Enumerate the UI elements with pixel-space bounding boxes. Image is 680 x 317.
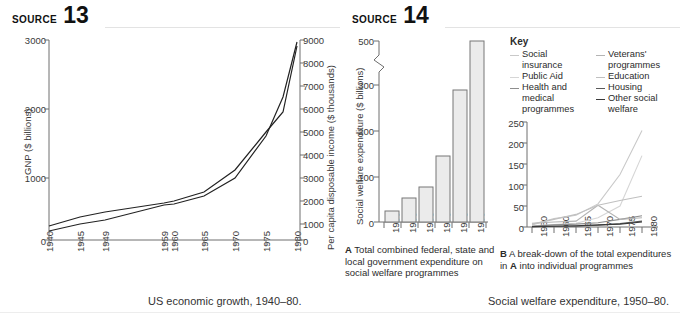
chart13-plot	[0, 0, 340, 317]
chart13-series-income	[49, 42, 297, 231]
source-panel-14: SOURCE 14 Social welfare expenditure ($ …	[340, 0, 680, 317]
page-bottom-rule	[0, 312, 680, 313]
source-panel-13: SOURCE 13 GNP ($ billions) Per capita di…	[0, 0, 340, 317]
chartB-caption-text-post: into individual programmes	[517, 260, 633, 271]
chartB-plot	[340, 0, 680, 260]
chartB-caption: B A break-down of the total expenditures…	[500, 248, 672, 271]
chart13-series-gnp	[49, 46, 297, 226]
chartB-series-social-insurance	[532, 130, 642, 225]
chartB-caption-letter: B	[500, 248, 507, 259]
chartB-series-public-aid	[532, 156, 642, 226]
panel13-bottom-caption: US economic growth, 1940–80.	[148, 295, 301, 307]
chartB-caption-ref: A	[510, 260, 517, 271]
panel14-bottom-caption: Social welfare expenditure, 1950–80.	[488, 295, 669, 307]
